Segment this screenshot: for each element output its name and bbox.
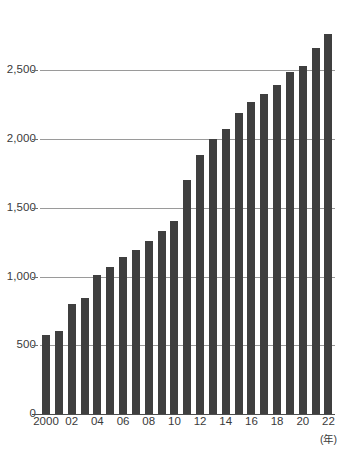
y-axis-tick-mark <box>32 208 38 209</box>
bar <box>183 180 191 414</box>
bar <box>93 275 101 414</box>
bar <box>209 139 217 414</box>
y-axis-tick-mark <box>32 277 38 278</box>
x-axis-unit-label: (年) <box>313 434 343 445</box>
bar-chart: 05001,0001,5002,0002,500 200002040608101… <box>0 0 351 454</box>
x-axis-baseline <box>36 414 335 415</box>
bar <box>222 129 230 414</box>
bar <box>247 102 255 414</box>
y-axis-tick-mark <box>32 139 38 140</box>
x-axis: 20000204060810121416182022 <box>0 416 351 436</box>
bar <box>106 267 114 414</box>
bar <box>170 221 178 414</box>
bar <box>42 335 50 414</box>
bar <box>68 304 76 414</box>
plot-area <box>40 18 335 414</box>
bar <box>235 113 243 414</box>
y-axis-tick-mark <box>32 70 38 71</box>
bar <box>324 34 332 414</box>
bar <box>312 48 320 414</box>
bar <box>145 241 153 414</box>
y-axis: 05001,0001,5002,0002,500 <box>0 0 36 454</box>
bar <box>81 298 89 414</box>
bar <box>55 331 63 414</box>
bar <box>273 85 281 414</box>
bar <box>119 257 127 414</box>
bar <box>158 231 166 414</box>
bar <box>132 250 140 414</box>
y-axis-tick-mark <box>32 345 38 346</box>
bar <box>196 155 204 414</box>
x-axis-tick-label: 22 <box>308 416 348 428</box>
bar <box>260 94 268 414</box>
bar <box>299 66 307 414</box>
bar <box>286 72 294 414</box>
